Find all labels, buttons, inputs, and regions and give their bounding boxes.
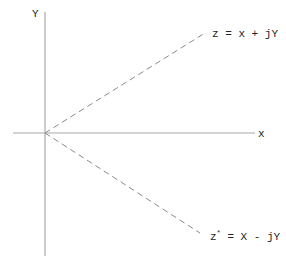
- vector-z-label: z = x + jY: [212, 28, 278, 40]
- vector-z: [45, 33, 205, 133]
- complex-plane-diagram: Y x z = x + jY z* = X - jY: [0, 0, 286, 268]
- vector-z-conjugate-label: z* = X - jY: [210, 229, 281, 243]
- x-axis-label: x: [258, 128, 265, 140]
- vector-z-conjugate: [45, 133, 200, 233]
- y-axis-label: Y: [32, 8, 39, 20]
